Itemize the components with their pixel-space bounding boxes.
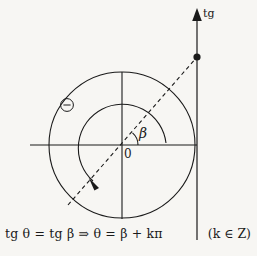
formula-condition: (k ∈ Z)	[208, 226, 251, 241]
trigonometry-diagram: tg β 0 tg θ = tg β ⇒ θ = β + kπ (k ∈ Z)	[0, 0, 257, 256]
beta-angle-arc	[133, 133, 139, 145]
rotation-arc-arrowhead	[89, 178, 99, 191]
terminal-ray-dashed	[68, 57, 197, 205]
beta-angle-label: β	[139, 126, 147, 140]
tangent-value-point	[193, 53, 200, 60]
tangent-axis-label: tg	[203, 8, 214, 19]
formula-caption: tg θ = tg β ⇒ θ = β + kπ	[5, 226, 163, 241]
origin-label: 0	[124, 148, 132, 160]
diagram-canvas	[0, 0, 257, 256]
formula-condition-text: (k ∈ Z)	[208, 226, 251, 241]
tangent-axis-arrowhead	[192, 8, 202, 21]
formula-text: tg θ = tg β ⇒ θ = β + kπ	[5, 226, 163, 241]
theta-marker-icon	[61, 99, 74, 112]
